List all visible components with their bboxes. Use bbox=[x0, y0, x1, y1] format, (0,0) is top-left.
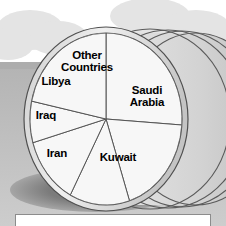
caption-frame bbox=[15, 214, 211, 226]
illustration-canvas: Saudi Arabia Kuwait Iran Iraq Libya Othe… bbox=[0, 0, 226, 226]
slice-label-libya: Libya bbox=[31, 76, 81, 88]
slice-label-other-countries: Other Countries bbox=[52, 50, 122, 73]
slice-label-iraq: Iraq bbox=[24, 110, 68, 122]
slice-label-saudi-arabia: Saudi Arabia bbox=[114, 85, 180, 108]
slice-label-iran: Iran bbox=[36, 148, 78, 160]
slice-label-kuwait: Kuwait bbox=[88, 152, 148, 164]
